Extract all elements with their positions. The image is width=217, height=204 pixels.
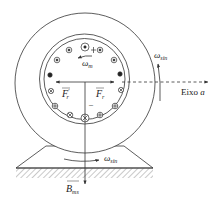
conductor-plus-icon [112,103,118,109]
sync-rotation-right-arrow-icon [158,64,160,101]
conductor-dot-icon [97,47,103,53]
axis-a-label: Eixo a [181,87,205,97]
sync-speed-right-label: ωsin [154,50,167,61]
conductor-dot-icon [81,43,89,51]
conductor-cross-icon [48,88,53,93]
force-left-label: F′r [61,88,70,100]
conductor-cross-icon [118,87,123,92]
conductor-dot-icon [54,57,60,63]
machine-diagram: ωm F′r Fr – Bms Eixo a ωsin ωsin [0,0,217,204]
conductor-dot-icon [66,47,72,53]
conductor-dot-icon [111,57,117,63]
conductor-plus-icon [97,112,103,118]
conductor-filled-icon [48,73,52,77]
conductor-plus-icon [52,103,58,109]
field-label: Bms [66,183,79,195]
conductor-filled-icon [118,72,122,76]
ground-hatching [16,168,153,178]
conductor-cross-icon [67,112,73,118]
